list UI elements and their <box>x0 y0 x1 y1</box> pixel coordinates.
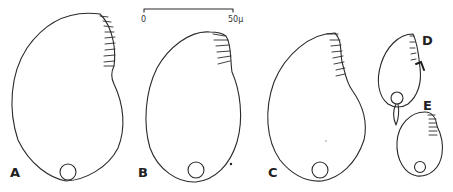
panel-label-c: C <box>268 165 278 180</box>
vacuole-c <box>312 162 328 178</box>
cilia-b <box>213 34 231 64</box>
cell-outline-e <box>397 112 443 176</box>
dot-c <box>325 140 327 142</box>
dot-b <box>230 163 232 165</box>
panel-label-a: A <box>10 165 20 180</box>
cilia-c <box>327 34 345 76</box>
cilia-e <box>428 115 437 135</box>
cell-panel-b: B <box>138 32 241 182</box>
figure-canvas: 0 50μ A B <box>0 0 453 192</box>
scale-bar-start-label: 0 <box>141 15 146 24</box>
panel-label-b: B <box>138 165 148 180</box>
scale-bar-line <box>144 9 233 12</box>
vacuole-e <box>415 162 426 173</box>
cell-outline-a <box>12 13 123 181</box>
cell-panel-c: C <box>268 33 366 181</box>
scale-bar-end-label: 50μ <box>228 15 243 24</box>
cell-outline-b <box>146 32 241 182</box>
cell-outline-d <box>378 34 420 107</box>
cell-panel-a: A <box>10 13 123 181</box>
panel-label-d: D <box>422 33 433 48</box>
vacuole-b <box>188 162 204 178</box>
vacuole-d <box>391 92 403 104</box>
scale-bar: 0 50μ <box>141 9 243 24</box>
panel-label-e: E <box>423 98 432 113</box>
vacuole-a <box>60 164 76 180</box>
cell-outline-c <box>268 33 366 181</box>
cell-panel-e: E <box>397 98 443 176</box>
